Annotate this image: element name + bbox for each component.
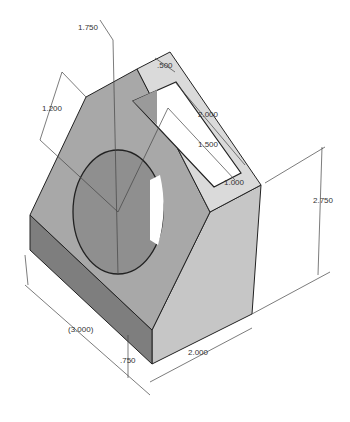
dim-hole-offset: 1.200 [42,104,63,113]
cad-drawing: 1.750 .500 2.000 1.500 1.200 1.000 2.750… [0,0,350,422]
dim-height: 2.750 [313,196,334,205]
dim-length-ref: (3.000) [68,325,94,334]
dim-slot-inner-length: 1.500 [198,140,219,149]
dim-width: 2.000 [188,348,209,357]
dim-slot-offset: .500 [157,61,173,70]
dim-base-height: .750 [120,356,136,365]
dim-slot-width: 1.000 [224,178,245,187]
dim-hole-diameter: 1.750 [78,23,99,32]
dim-slot-length: 2.000 [198,110,219,119]
